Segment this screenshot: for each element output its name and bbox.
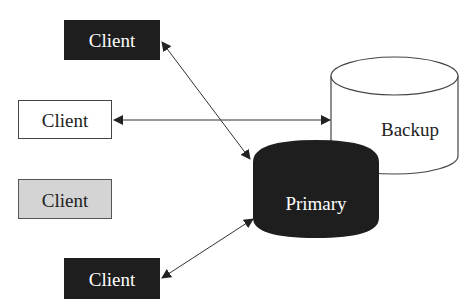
arrow-client1-primary bbox=[162, 42, 250, 159]
replication-diagram: Backup Primary Client Client Client Clie… bbox=[0, 0, 466, 307]
client-label: Client bbox=[42, 110, 89, 131]
arrow-client4-primary bbox=[162, 219, 253, 278]
client-box-4: Client bbox=[64, 258, 160, 299]
client-label: Client bbox=[89, 30, 136, 51]
client-box-3: Client bbox=[19, 180, 112, 219]
client-label: Client bbox=[42, 190, 89, 211]
backup-label: Backup bbox=[381, 119, 439, 140]
client-box-2: Client bbox=[19, 101, 112, 139]
client-box-1: Client bbox=[64, 20, 160, 60]
primary-label: Primary bbox=[285, 193, 347, 214]
primary-database: Primary bbox=[253, 140, 379, 238]
client-label: Client bbox=[89, 269, 136, 290]
